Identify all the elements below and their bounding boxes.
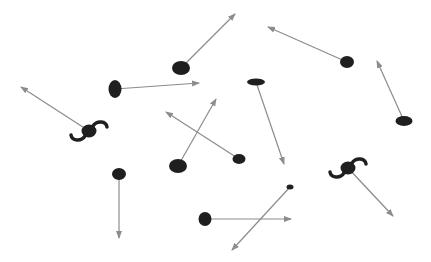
ball-object	[112, 168, 126, 180]
ball-icon	[172, 61, 190, 75]
velocity-arrow-icon	[166, 112, 239, 159]
ball-object	[199, 212, 212, 226]
spinner-object	[330, 159, 366, 177]
ball-object	[287, 185, 294, 190]
ball-object	[233, 154, 246, 164]
velocity-arrow-icon	[256, 82, 284, 164]
velocity-arrow-icon	[377, 61, 404, 121]
spinner-object	[71, 122, 107, 140]
velocity-arrow-icon	[348, 168, 393, 216]
ball-icon	[199, 212, 212, 226]
ball-icon	[112, 168, 126, 180]
ball-icon	[109, 80, 122, 98]
velocity-arrows-layer	[21, 14, 404, 250]
ball-icon	[287, 185, 294, 190]
ball-icon	[233, 154, 246, 164]
velocity-arrow-icon	[115, 83, 199, 89]
ball-object	[247, 79, 265, 86]
ball-object	[109, 80, 122, 98]
ball-icon	[247, 79, 265, 86]
motion-diagram-canvas	[0, 0, 431, 262]
ball-object	[340, 56, 354, 68]
ball-icon	[396, 116, 413, 126]
ball-icon	[340, 56, 354, 68]
velocity-arrow-icon	[181, 14, 235, 68]
ball-icon	[169, 159, 187, 173]
ball-object	[172, 61, 190, 75]
ball-object	[169, 159, 187, 173]
ball-object	[396, 116, 413, 126]
velocity-arrow-icon	[21, 87, 89, 131]
velocity-arrow-icon	[268, 27, 347, 62]
objects-layer	[71, 56, 413, 226]
